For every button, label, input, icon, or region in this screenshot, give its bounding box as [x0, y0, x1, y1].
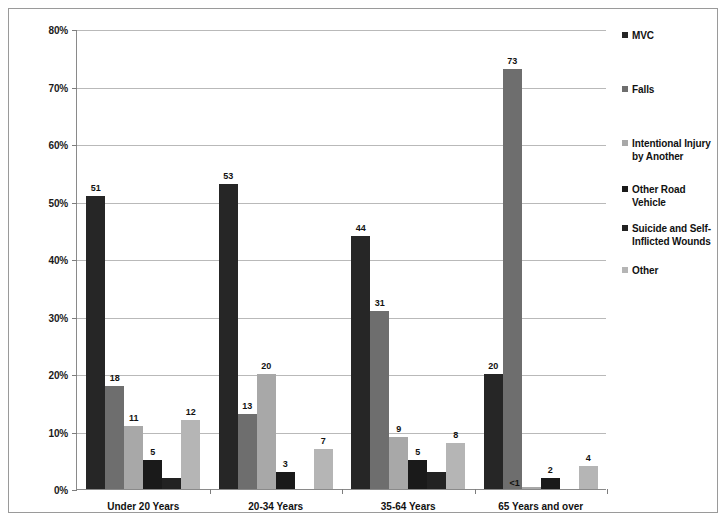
legend-swatch-icon	[622, 32, 628, 38]
legend-item[interactable]: Other Road Vehicle	[622, 183, 718, 209]
bar[interactable]: 20	[257, 374, 276, 489]
bar-slot: 7	[314, 30, 333, 489]
bar-slot: 9	[389, 30, 408, 489]
legend-item-label: Other Road Vehicle	[632, 183, 718, 209]
x-axis-category-label: Under 20 Years	[77, 501, 210, 512]
y-axis-tick-label: 80%	[49, 25, 68, 36]
x-tick-mark	[342, 489, 343, 494]
bar-value-label: 44	[356, 224, 366, 233]
bar-group-bars: 2073<124	[484, 30, 598, 489]
bar-group: 5313203720-34 Years	[210, 30, 343, 489]
legend-item[interactable]: Intentional Injury by Another	[622, 137, 718, 163]
y-axis-tick-label: 70%	[49, 82, 68, 93]
bar[interactable]: 4	[579, 466, 598, 489]
bar[interactable]: 51	[86, 196, 105, 489]
bar-slot: 5	[143, 30, 162, 489]
x-axis-category-label: 20-34 Years	[210, 501, 343, 512]
bar-value-label: 3	[283, 460, 288, 469]
legend-item[interactable]: Other	[622, 264, 658, 277]
x-axis-category-label: 35-64 Years	[342, 501, 475, 512]
bar-value-label: 73	[507, 57, 517, 66]
y-axis-tick-label: 20%	[49, 370, 68, 381]
bar-slot: 13	[238, 30, 257, 489]
x-axis-category-label: 65 Years and over	[475, 501, 608, 512]
bar-value-label: 18	[110, 374, 120, 383]
legend-item-label: Intentional Injury by Another	[632, 137, 718, 163]
legend-item-label: MVC	[632, 29, 654, 42]
bar-group: 443195835-64 Years	[342, 30, 475, 489]
bar[interactable]: 5	[408, 460, 427, 489]
bar-value-label: 13	[242, 402, 252, 411]
bar-group: 2073<12465 Years and over	[475, 30, 608, 489]
bar-slot: 3	[276, 30, 295, 489]
bar-group-bars: 4431958	[351, 30, 465, 489]
bar-value-label: 2	[548, 466, 553, 475]
bar-slot: 44	[351, 30, 370, 489]
bar[interactable]: 7	[314, 449, 333, 489]
bar-value-label: 20	[261, 362, 271, 371]
bar-slot	[162, 30, 181, 489]
x-tick-mark	[475, 489, 476, 494]
y-axis-tick-label: 30%	[49, 312, 68, 323]
bar-slot: 2	[541, 30, 560, 489]
bar-value-label: 7	[321, 437, 326, 446]
bar-slot: 12	[181, 30, 200, 489]
bar-slot: 31	[370, 30, 389, 489]
bar-group: 511811512Under 20 Years	[77, 30, 210, 489]
bar[interactable]: 18	[105, 386, 124, 490]
bar-slot: 8	[446, 30, 465, 489]
bar[interactable]	[162, 478, 181, 490]
bar[interactable]: 2	[541, 478, 560, 490]
bar-group-bars: 53132037	[219, 30, 333, 489]
legend-item[interactable]: Suicide and Self-Inflicted Wounds	[622, 222, 718, 248]
bar-slot	[295, 30, 314, 489]
bar-value-label: 11	[129, 414, 139, 423]
chart-figure: 0%10%20%30%40%50%60%70%80% 511811512Unde…	[0, 0, 728, 527]
y-axis-tick-label: 50%	[49, 197, 68, 208]
legend-item-label: Other	[632, 264, 658, 277]
bar-slot: 5	[408, 30, 427, 489]
legend-item-label: Falls	[632, 83, 654, 96]
bar-slot: 4	[579, 30, 598, 489]
bar-slot	[560, 30, 579, 489]
bar-group-bars: 511811512	[86, 30, 200, 489]
x-tick-mark	[607, 489, 608, 494]
bar[interactable]: 44	[351, 236, 370, 489]
bar[interactable]: 20	[484, 374, 503, 489]
legend-item[interactable]: Falls	[622, 83, 654, 96]
bar[interactable]: 12	[181, 420, 200, 489]
bar[interactable]: 53	[219, 184, 238, 489]
bar-value-label: <1	[509, 479, 519, 488]
bar[interactable]	[427, 472, 446, 489]
y-axis-tick-label: 60%	[49, 140, 68, 151]
bar-value-label: 9	[396, 425, 401, 434]
bar-value-label: 5	[150, 448, 155, 457]
bar-slot: 73	[503, 30, 522, 489]
bar-value-label: 20	[488, 362, 498, 371]
legend-swatch-icon	[622, 140, 628, 146]
y-axis-tick-label: 10%	[49, 427, 68, 438]
bar[interactable]: 11	[124, 426, 143, 489]
bar-value-label: 31	[375, 299, 385, 308]
plot-area: 0%10%20%30%40%50%60%70%80% 511811512Unde…	[76, 30, 606, 490]
bar-slot: 53	[219, 30, 238, 489]
bar[interactable]: <1	[522, 487, 541, 489]
y-axis-tick-label: 0%	[54, 485, 68, 496]
bar[interactable]: 8	[446, 443, 465, 489]
bar[interactable]: 9	[389, 437, 408, 489]
legend-swatch-icon	[622, 86, 628, 92]
bar-value-label: 8	[453, 431, 458, 440]
bar[interactable]: 5	[143, 460, 162, 489]
bar-value-label: 51	[91, 184, 101, 193]
y-axis-tick-label: 40%	[49, 255, 68, 266]
bar-value-label: 12	[186, 408, 196, 417]
bar[interactable]: 13	[238, 414, 257, 489]
bar[interactable]: 31	[370, 311, 389, 489]
y-tick-mark	[72, 490, 77, 491]
bar[interactable]: 73	[503, 69, 522, 489]
bar-slot: 51	[86, 30, 105, 489]
legend-item[interactable]: MVC	[622, 29, 654, 42]
bar[interactable]: 3	[276, 472, 295, 489]
bar-slot	[427, 30, 446, 489]
x-tick-mark	[210, 489, 211, 494]
